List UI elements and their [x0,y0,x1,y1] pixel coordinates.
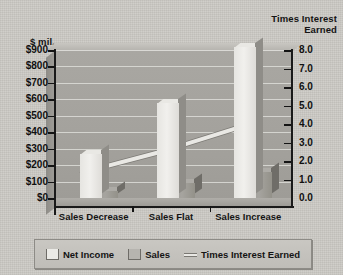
right-axis-tick-label: 5.0 [299,100,313,111]
bar-face [234,47,256,198]
bar-side [255,37,263,194]
left-axis-tick-label: $300 [26,143,48,154]
left-axis-tick [48,132,55,134]
left-axis-tick [48,182,55,184]
right-axis-tick-label: 7.0 [299,63,313,74]
bar-net-income-1 [157,103,179,198]
sales-swatch [128,249,141,260]
legend-item-1: Sales [128,249,170,260]
bar-side [101,144,109,194]
right-axis-tick-label: 2.0 [299,155,313,166]
right-axis-title: Times Interest Earned [241,13,337,35]
right-axis-tick [284,106,291,108]
left-axis-tick [48,83,55,85]
bar-net-income-2 [234,47,256,198]
left-axis-tick [48,99,55,101]
legend-item-0: Net Income [46,249,114,260]
left-axis-tick [48,198,55,200]
left-axis-tick-label: $0 [37,192,48,203]
left-axis-tick-label: $900 [26,44,48,55]
right-axis-tick-label: 1.0 [299,174,313,185]
line-marker-swatch [184,252,197,256]
legend-item-label: Times Interest Earned [201,249,300,260]
plot-area [46,50,293,207]
right-axis-line [291,49,293,207]
right-axis-title-line1: Times Interest [241,13,337,24]
x-axis-category-label: Sales Increase [203,211,293,222]
bar-side [271,162,279,194]
bar-net-income-0 [80,154,102,198]
left-axis-tick-label: $500 [26,110,48,121]
right-axis-tick-label: 0.0 [299,192,313,203]
right-axis-tick [284,69,291,71]
left-axis-tick-label: $100 [26,176,48,187]
left-axis-tick-label: $700 [26,77,48,88]
right-axis-tick-label: 6.0 [299,81,313,92]
right-axis-tick-label: 3.0 [299,137,313,148]
legend-item-label: Sales [145,249,170,260]
right-axis-tick-label: 4.0 [299,118,313,129]
left-axis-tick-label: $200 [26,159,48,170]
legend-item-label: Net Income [63,249,114,260]
right-axis-tick [284,143,291,145]
left-axis-tick-label: $800 [26,60,48,71]
bar-face [157,103,179,198]
chart-legend: Net IncomeSalesTimes Interest Earned [34,239,312,269]
right-axis-tick [284,124,291,126]
left-axis-tick-label: $600 [26,93,48,104]
left-axis-tick [48,50,55,52]
legend-item-2: Times Interest Earned [184,249,300,260]
bar-face [80,154,102,198]
right-axis-title-line2: Earned [241,24,337,35]
right-axis-tick [284,161,291,163]
right-axis-tick [284,87,291,89]
net-income-swatch [46,249,59,260]
right-axis-tick [284,50,291,52]
left-axis-tick [48,66,55,68]
left-axis-tick [48,149,55,151]
left-axis-tick [48,116,55,118]
right-axis-tick-label: 8.0 [299,44,313,55]
left-axis-tick-label: $400 [26,126,48,137]
chart-figure: $ mil. Times Interest Earned $900$800$70… [0,0,343,275]
right-axis-tick [284,180,291,182]
left-axis-tick [48,165,55,167]
x-axis-line [54,206,294,208]
bar-side [178,93,186,194]
